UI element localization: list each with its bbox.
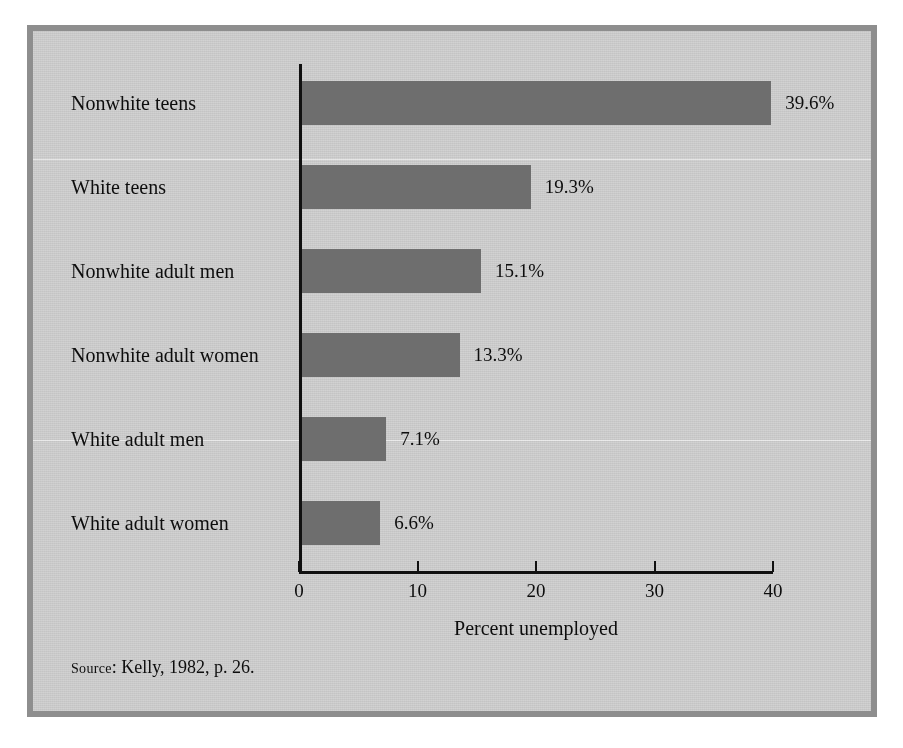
bar-row: White teens19.3%: [33, 148, 871, 226]
bar-category-label: Nonwhite adult women: [71, 344, 293, 367]
bar-value-label: 6.6%: [394, 512, 434, 534]
bar: [302, 249, 481, 293]
value-axis-tick: [772, 561, 774, 572]
bar-category-label: Nonwhite teens: [71, 92, 293, 115]
bar-value-label: 13.3%: [474, 344, 523, 366]
bar: [302, 501, 380, 545]
value-axis-tick-label: 20: [527, 580, 546, 602]
value-axis-tick: [535, 561, 537, 572]
bar-value-label: 15.1%: [495, 260, 544, 282]
bar: [302, 333, 460, 377]
bar-category-label: White adult men: [71, 428, 293, 451]
source-note-prefix: Source: [71, 661, 112, 676]
source-note-separator: :: [112, 657, 117, 677]
bar-category-label: White teens: [71, 176, 293, 199]
bar-value-label: 7.1%: [400, 428, 440, 450]
source-note: Source: Kelly, 1982, p. 26.: [71, 657, 255, 678]
bar-category-label: White adult women: [71, 512, 293, 535]
bar-value-label: 39.6%: [785, 92, 834, 114]
value-axis-tick: [298, 561, 300, 572]
source-note-text: Kelly, 1982, p. 26.: [121, 657, 254, 677]
value-axis-tick-label: 30: [645, 580, 664, 602]
bar-row: Nonwhite teens39.6%: [33, 64, 871, 142]
value-axis-tick: [417, 561, 419, 572]
bar-row: Nonwhite adult women13.3%: [33, 316, 871, 394]
bar-value-label: 19.3%: [545, 176, 594, 198]
bar: [302, 417, 386, 461]
figure-plate: 010203040 Percent unemployed Nonwhite te…: [27, 25, 877, 717]
value-axis-tick-label: 10: [408, 580, 427, 602]
x-axis-title: Percent unemployed: [299, 617, 773, 640]
bar-row: White adult men7.1%: [33, 400, 871, 478]
bar-row: White adult women6.6%: [33, 484, 871, 562]
bar-category-label: Nonwhite adult men: [71, 260, 293, 283]
value-axis-tick: [654, 561, 656, 572]
bar-row: Nonwhite adult men15.1%: [33, 232, 871, 310]
bar: [302, 81, 771, 125]
bar-chart-plot-area: 010203040 Percent unemployed Nonwhite te…: [33, 31, 871, 711]
value-axis-tick-label: 40: [764, 580, 783, 602]
bar: [302, 165, 531, 209]
value-axis-tick-label: 0: [294, 580, 304, 602]
